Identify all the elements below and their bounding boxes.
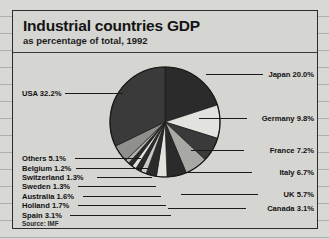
pie-label-germany: Germany 9.8% <box>163 114 314 123</box>
leader-line-switzerland <box>97 177 152 178</box>
pie-label-uk: UK 5.7% <box>163 190 314 199</box>
leader-line-others <box>75 158 141 159</box>
source-note: Source: IMF <box>22 220 59 227</box>
leader-line-australia <box>83 196 161 197</box>
pie-label-others: Others 5.1% <box>22 154 66 163</box>
pie-label-spain: Spain 3.1% <box>22 211 62 220</box>
pie-label-sweden: Sweden 1.3% <box>22 182 70 191</box>
pie-label-switzerland: Switzerland 1.3% <box>22 173 84 182</box>
pie-label-france: France 7.2% <box>163 146 314 155</box>
pie-label-holland: Holland 1.7% <box>22 201 69 210</box>
pie-label-belgium: Belgium 1.2% <box>22 164 71 173</box>
chart-panel: Industrial countries GDP as percentage o… <box>12 10 318 229</box>
leader-line-usa <box>65 93 123 94</box>
pie-label-australia: Australia 1.6% <box>22 192 74 201</box>
pie-label-italy: Italy 6.7% <box>163 168 314 177</box>
pie-label-canada: Canada 3.1% <box>163 204 314 213</box>
pie-label-usa: USA 32.2% <box>22 89 61 98</box>
leader-line-holland <box>78 205 166 206</box>
leader-line-belgium <box>76 168 148 169</box>
leader-line-spain <box>70 215 171 216</box>
pie-label-japan: Japan 20.0% <box>163 70 314 79</box>
leader-line-sweden <box>78 186 156 187</box>
